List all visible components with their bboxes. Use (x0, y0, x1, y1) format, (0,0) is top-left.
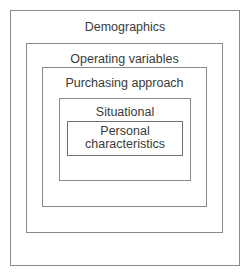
layer-label-operating-variables: Operating variables (27, 52, 222, 66)
layer-label-personal-characteristics: Personal characteristics (68, 125, 182, 151)
layer-label-situational: Situational (60, 105, 190, 119)
layer-label-purchasing-approach: Purchasing approach (43, 76, 206, 90)
layer-label-line-2: characteristics (68, 138, 182, 151)
layer-personal-characteristics: Personal characteristics (67, 121, 183, 156)
layer-label-demographics: Demographics (11, 20, 239, 34)
